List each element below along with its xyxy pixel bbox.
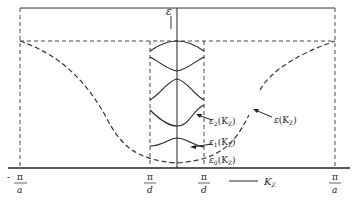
band0-label: ε0(KZ) [209,155,236,166]
svg-text:d: d [147,185,153,195]
energy-axis-label: ε [166,5,172,18]
arrowhead-band1 [190,145,196,149]
tick-neg-pi-a: - π a [7,172,27,195]
tick-neg-pi-d: π d [144,172,156,195]
bulk-dispersion-curve-right [260,41,335,90]
k-axis-label: KZ [263,176,276,188]
band2-label: ε2(KZ) [209,116,236,127]
tick-pos-pi-a: π a [329,172,341,195]
tick-pos-pi-d: π d [198,172,210,195]
svg-text:π: π [332,172,338,182]
superlattice-band-diagram: ε KZ - π a π d π d π a ε(KZ) ε2(KZ) ε1(K… [0,0,357,200]
bulk-curve-label: ε(KZ) [274,115,297,126]
svg-text:a: a [17,185,22,195]
svg-text:a: a [332,185,337,195]
svg-text:-: - [7,172,10,182]
svg-text:π: π [17,172,23,182]
band1-label: ε1(KZ) [209,137,236,148]
svg-text:π: π [201,172,207,182]
svg-text:d: d [201,185,207,195]
svg-text:π: π [147,172,153,182]
